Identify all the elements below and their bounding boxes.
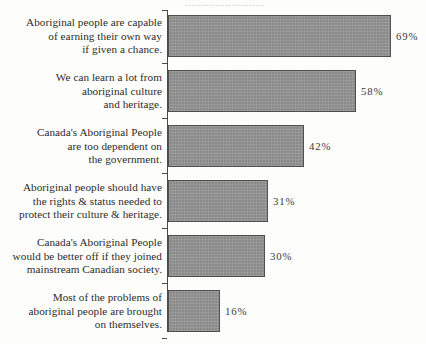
bar <box>168 70 356 112</box>
category-label: Canada's Aboriginal People are too depen… <box>0 126 162 167</box>
bar-row: Aboriginal people should have the rights… <box>0 179 426 223</box>
bar <box>168 15 391 57</box>
bar-row: Canada's Aboriginal People would be bett… <box>0 234 426 278</box>
bar-row: Most of the problems of aboriginal peopl… <box>0 289 426 333</box>
bar <box>168 125 304 167</box>
axis-tick <box>162 173 167 174</box>
axis-tick <box>162 118 167 119</box>
bar-value-label: 30% <box>270 250 293 262</box>
category-label: Most of the problems of aboriginal peopl… <box>0 291 162 332</box>
plot-area: Aboriginal people are capable of earning… <box>0 0 426 344</box>
category-label: Aboriginal people are capable of earning… <box>0 16 162 57</box>
bar-value-label: 42% <box>309 140 332 152</box>
axis-tick <box>162 338 167 339</box>
bar <box>168 180 268 222</box>
bar-value-label: 31% <box>273 195 296 207</box>
category-label: Canada's Aboriginal People would be bett… <box>0 236 162 277</box>
bar <box>168 235 265 277</box>
axis-tick <box>162 283 167 284</box>
axis-tick <box>162 228 167 229</box>
bar <box>168 290 220 332</box>
axis-tick <box>162 63 167 64</box>
bar-chart-figure: .......................... Aboriginal pe… <box>0 0 426 344</box>
category-label: Aboriginal people should have the rights… <box>0 181 162 222</box>
bar-value-label: 58% <box>361 85 384 97</box>
bar-row: We can learn a lot from aboriginal cultu… <box>0 69 426 113</box>
bar-row: Aboriginal people are capable of earning… <box>0 14 426 58</box>
bar-row: Canada's Aboriginal People are too depen… <box>0 124 426 168</box>
bar-value-label: 16% <box>225 305 248 317</box>
axis-tick <box>162 10 167 11</box>
bar-value-label: 69% <box>396 30 419 42</box>
category-label: We can learn a lot from aboriginal cultu… <box>0 71 162 112</box>
